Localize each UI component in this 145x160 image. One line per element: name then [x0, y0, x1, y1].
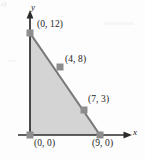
point-label-0-12: (0, 12) [37, 20, 63, 30]
point-label-7-3: (7, 3) [88, 95, 109, 105]
point-marker-4-8 [57, 64, 64, 71]
point-label-0-0: (0, 0) [34, 139, 55, 149]
x-axis-label: x [133, 128, 137, 137]
graph-figure: c) (0, 12) (4, 8) (7, 3) (0, 0) (9, 0) y… [0, 0, 145, 160]
point-marker-0-12 [27, 30, 34, 37]
arrow-right-icon [124, 132, 133, 139]
point-marker-7-3 [81, 107, 88, 114]
y-axis-label: y [31, 3, 35, 12]
coordinate-plot [0, 0, 145, 160]
point-marker-0-0 [27, 132, 34, 139]
point-label-4-8: (4, 8) [65, 55, 86, 65]
point-label-9-0: (9, 0) [92, 139, 113, 149]
